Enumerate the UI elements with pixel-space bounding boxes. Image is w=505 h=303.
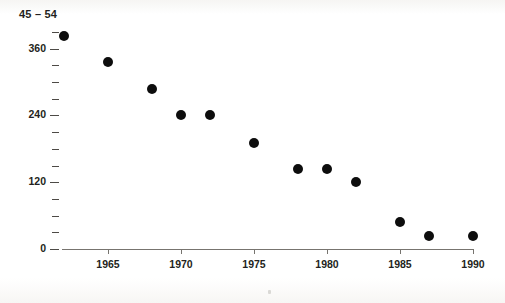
y-axis-tick-240 bbox=[50, 115, 59, 116]
x-axis-tick-label-1965: 1965 bbox=[85, 258, 131, 270]
y-axis-tick-0 bbox=[50, 249, 59, 250]
y-axis-minor-tick-390 bbox=[52, 32, 59, 33]
x-axis-tick-label-1990: 1990 bbox=[450, 258, 496, 270]
y-axis-tick-label-120: 120 bbox=[2, 175, 46, 187]
x-axis-line bbox=[62, 249, 474, 250]
x-axis-tick-1965 bbox=[108, 249, 109, 254]
x-axis-tick-1970 bbox=[181, 249, 182, 254]
data-point bbox=[59, 31, 69, 41]
chart-title: 45 – 54 bbox=[19, 8, 57, 20]
data-point bbox=[322, 164, 332, 174]
scan-artifact-top bbox=[0, 0, 505, 14]
data-point bbox=[147, 84, 157, 94]
x-axis-tick-label-1980: 1980 bbox=[304, 258, 350, 270]
x-axis-tick-1975 bbox=[254, 249, 255, 254]
y-axis-minor-tick-330 bbox=[52, 65, 59, 66]
y-axis-minor-tick-60 bbox=[52, 216, 59, 217]
y-axis-minor-tick-30 bbox=[52, 232, 59, 233]
y-axis-tick-label-360: 360 bbox=[2, 42, 46, 54]
y-axis-minor-tick-90 bbox=[52, 199, 59, 200]
x-axis-tick-1985 bbox=[400, 249, 401, 254]
x-axis-tick-label-1970: 1970 bbox=[158, 258, 204, 270]
x-axis-tick-1990 bbox=[473, 249, 474, 254]
data-point bbox=[205, 110, 215, 120]
data-point bbox=[176, 110, 186, 120]
y-axis-minor-tick-210 bbox=[52, 132, 59, 133]
y-axis-tick-120 bbox=[50, 182, 59, 183]
x-axis-tick-label-1985: 1985 bbox=[377, 258, 423, 270]
data-point bbox=[103, 57, 113, 67]
y-axis-minor-tick-150 bbox=[52, 166, 59, 167]
data-point bbox=[424, 231, 434, 241]
y-axis-minor-tick-180 bbox=[52, 149, 59, 150]
scan-speck bbox=[268, 290, 271, 294]
scatter-chart: 45 – 54 0120240360 196519701975198019851… bbox=[0, 0, 505, 303]
data-point bbox=[351, 177, 361, 187]
y-axis-minor-tick-270 bbox=[52, 99, 59, 100]
y-axis-minor-tick-300 bbox=[52, 82, 59, 83]
y-axis-tick-label-240: 240 bbox=[2, 108, 46, 120]
x-axis-tick-label-1975: 1975 bbox=[231, 258, 277, 270]
x-axis-tick-1980 bbox=[327, 249, 328, 254]
data-point bbox=[249, 138, 259, 148]
y-axis-tick-360 bbox=[50, 49, 59, 50]
data-point bbox=[395, 217, 405, 227]
data-point bbox=[468, 231, 478, 241]
data-point bbox=[293, 164, 303, 174]
y-axis-tick-label-0: 0 bbox=[2, 242, 46, 254]
scan-artifact-bottom bbox=[0, 278, 505, 303]
